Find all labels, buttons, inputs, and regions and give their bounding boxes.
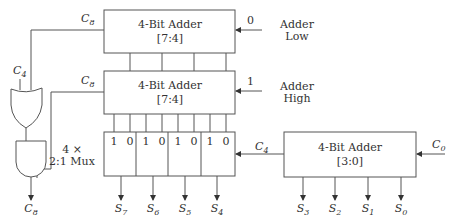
mux-input-label: 0 (127, 135, 134, 148)
adder-base-output-arrows (303, 177, 401, 200)
adder-high-range: [7:4] (157, 93, 183, 106)
adder-base: 4-Bit Adder [3:0] (284, 132, 416, 177)
carry-c0-label: C0 (432, 138, 446, 153)
mux-label-2: 2:1 Mux (49, 155, 96, 168)
output-s0: S0 (395, 202, 408, 217)
mux-input-label: 0 (223, 135, 230, 148)
output-s7: S7 (115, 202, 129, 217)
adder-low-range: [7:4] (157, 32, 183, 45)
adder-high-carry-in-value: 1 (247, 75, 254, 88)
adder-low-carry-out-label: C8 (81, 12, 95, 27)
or-gate (11, 88, 42, 128)
carry-select-adder-diagram: 4-Bit Adder [7:4] 0 Adder Low C8 4-Bit A… (0, 0, 453, 221)
mux-input-label: 0 (191, 135, 198, 148)
output-s1: S1 (362, 202, 375, 217)
adder-base-title: 4-Bit Adder (318, 141, 383, 154)
carry-out-c8-label: C8 (24, 202, 38, 217)
adder-high: 4-Bit Adder [7:4] (104, 71, 235, 114)
and-gate (16, 141, 46, 177)
mux-input-label: 1 (143, 135, 150, 148)
adder-high-side-label-2: High (283, 92, 310, 105)
mux-input-wires (114, 114, 226, 132)
adder-high-title: 4-Bit Adder (138, 79, 203, 92)
adder-low-sum-wires (130, 53, 226, 71)
adder-low-carry-in-value: 0 (247, 14, 254, 27)
output-s2: S2 (329, 202, 342, 217)
mux-4x2to1: 1 0 1 0 1 0 1 0 (104, 132, 235, 176)
adder-base-range: [3:0] (337, 155, 363, 168)
output-s5: S5 (179, 202, 192, 217)
output-s4: S4 (211, 202, 224, 217)
mux-input-label: 1 (111, 135, 118, 148)
adder-low: 4-Bit Adder [7:4] (104, 10, 235, 53)
mux-input-label: 1 (175, 135, 182, 148)
mux-output-arrows (121, 176, 217, 200)
mux-input-label: 0 (159, 135, 166, 148)
output-s3: S3 (297, 202, 310, 217)
adder-low-title: 4-Bit Adder (138, 18, 203, 31)
output-s6: S6 (147, 202, 160, 217)
carry-c4-label: C4 (255, 140, 269, 155)
adder-high-carry-out-label: C8 (81, 74, 95, 89)
or-input-c4-label: C4 (13, 64, 27, 79)
mux-input-label: 1 (207, 135, 214, 148)
adder-low-side-label-2: Low (285, 30, 309, 43)
